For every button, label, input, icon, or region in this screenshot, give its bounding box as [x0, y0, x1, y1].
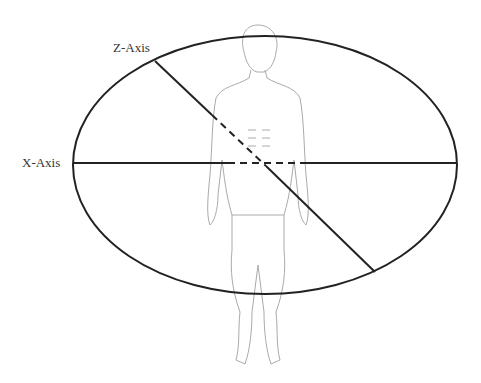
- human-figure: [208, 25, 309, 364]
- z-axis-line-lower: [266, 166, 375, 272]
- z-axis-line-upper: [155, 61, 212, 115]
- z-axis-label: Z-Axis: [113, 40, 150, 56]
- x-axis-label: X-Axis: [22, 155, 60, 171]
- axes: [73, 36, 457, 294]
- z-axis-line-dashed: [212, 115, 266, 166]
- axis-diagram: [0, 0, 481, 383]
